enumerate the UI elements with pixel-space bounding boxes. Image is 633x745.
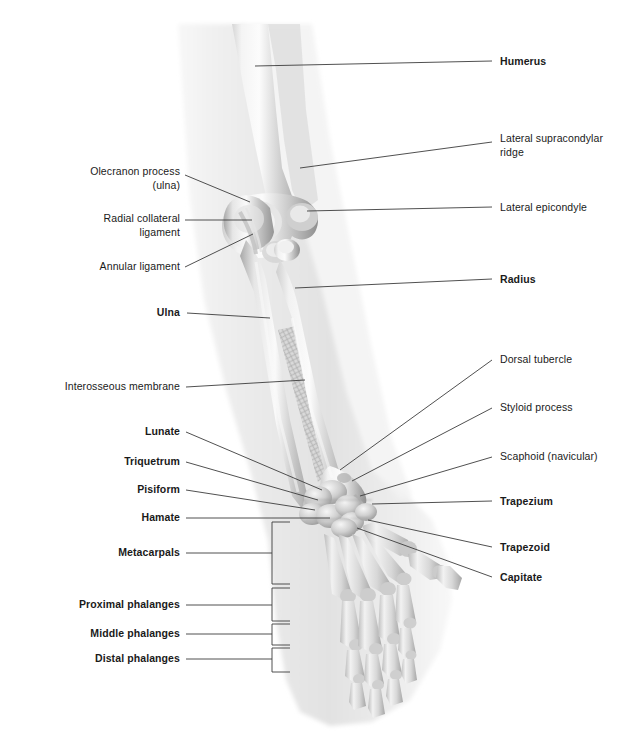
label-middle-phalanges: Middle phalanges — [40, 627, 180, 641]
label-humerus: Humerus — [500, 55, 546, 69]
label-radial-collateral-ligament: Radial collateral ligament — [48, 212, 180, 239]
label-trapezium: Trapezium — [500, 495, 553, 509]
label-radius: Radius — [500, 273, 536, 287]
label-styloid-process: Styloid process — [500, 401, 573, 415]
label-pisiform: Pisiform — [80, 483, 180, 497]
label-ulna: Ulna — [100, 306, 180, 320]
label-lunate: Lunate — [90, 425, 180, 439]
label-proximal-phalanges: Proximal phalanges — [30, 598, 180, 612]
anatomy-figure: Humerus Lateral supracondylar ridge Late… — [0, 0, 633, 745]
label-hamate: Hamate — [80, 511, 180, 525]
label-interosseous-membrane: Interosseous membrane — [20, 380, 180, 394]
label-olecranon-process-ulna: Olecranon process (ulna) — [40, 165, 180, 192]
label-dorsal-tubercle: Dorsal tubercle — [500, 353, 572, 367]
label-capitate: Capitate — [500, 571, 542, 585]
label-scaphoid-navicular: Scaphoid (navicular) — [500, 450, 598, 464]
label-annular-ligament: Annular ligament — [40, 260, 180, 274]
label-lateral-supracondylar-ridge: Lateral supracondylar ridge — [500, 132, 622, 159]
label-distal-phalanges: Distal phalanges — [45, 652, 180, 666]
label-lateral-epicondyle: Lateral epicondyle — [500, 201, 587, 215]
label-metacarpals: Metacarpals — [60, 546, 180, 560]
label-triquetrum: Triquetrum — [70, 455, 180, 469]
label-trapezoid: Trapezoid — [500, 541, 550, 555]
